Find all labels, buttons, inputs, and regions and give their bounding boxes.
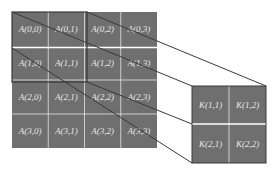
connector-lines [12, 12, 266, 163]
diagram-lines [0, 0, 276, 172]
